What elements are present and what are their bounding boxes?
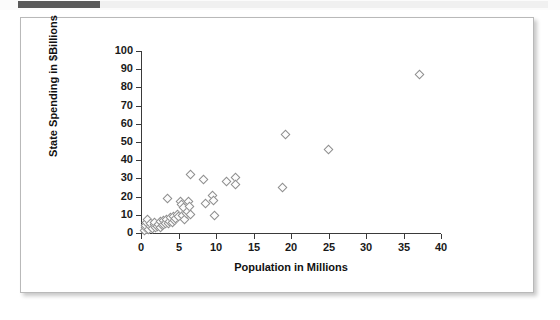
x-tick <box>216 234 217 239</box>
x-tick-label: 40 <box>429 241 453 253</box>
scatter-plot: State Spending in $Billions Population i… <box>21 18 535 294</box>
y-tick <box>136 106 141 107</box>
y-tick <box>136 178 141 179</box>
y-tick <box>136 197 141 198</box>
y-tick-label: 50 <box>107 135 133 147</box>
scatter-point <box>209 211 219 221</box>
x-axis-title: Population in Millions <box>141 261 441 273</box>
y-tick-label: 60 <box>107 117 133 129</box>
y-tick-label: 90 <box>107 62 133 74</box>
x-tick-label: 0 <box>129 241 153 253</box>
x-tick-label: 15 <box>242 241 266 253</box>
x-tick-label: 30 <box>354 241 378 253</box>
scatter-point <box>280 129 290 139</box>
y-tick-label: 80 <box>107 80 133 92</box>
top-ruler-strip <box>0 0 560 10</box>
scatter-point <box>199 175 209 185</box>
y-tick-label: 30 <box>107 171 133 183</box>
y-tick <box>136 124 141 125</box>
x-tick <box>179 234 180 239</box>
x-tick-label: 10 <box>204 241 228 253</box>
x-tick <box>404 234 405 239</box>
y-axis-title: State Spending in $Billions <box>47 6 59 166</box>
scatter-point <box>208 196 218 206</box>
y-tick-label: 0 <box>107 226 133 238</box>
scatter-point <box>324 145 334 155</box>
x-tick-label: 25 <box>317 241 341 253</box>
scatter-point <box>185 170 195 180</box>
x-tick <box>141 234 142 239</box>
y-tick-label: 100 <box>107 44 133 56</box>
y-tick <box>136 142 141 143</box>
y-tick <box>136 215 141 216</box>
y-tick-label: 10 <box>107 208 133 220</box>
y-tick-label: 70 <box>107 99 133 111</box>
figure-card: State Spending in $Billions Population i… <box>20 17 534 293</box>
top-strip-light-segment <box>100 1 548 8</box>
y-axis-line <box>141 51 142 233</box>
x-tick <box>291 234 292 239</box>
y-tick-label: 40 <box>107 153 133 165</box>
x-tick <box>366 234 367 239</box>
y-tick <box>136 51 141 52</box>
x-tick-label: 35 <box>392 241 416 253</box>
y-tick-label: 20 <box>107 190 133 202</box>
x-tick <box>254 234 255 239</box>
x-tick-label: 5 <box>167 241 191 253</box>
y-tick <box>136 160 141 161</box>
y-tick <box>136 87 141 88</box>
scatter-point <box>415 70 425 80</box>
y-tick <box>136 69 141 70</box>
scatter-point <box>222 177 232 187</box>
x-tick-label: 20 <box>279 241 303 253</box>
scatter-point <box>277 182 287 192</box>
top-strip-dark-segment <box>18 1 100 8</box>
x-tick <box>441 234 442 239</box>
scatter-point <box>231 180 241 190</box>
scatter-point <box>163 194 173 204</box>
x-tick <box>329 234 330 239</box>
